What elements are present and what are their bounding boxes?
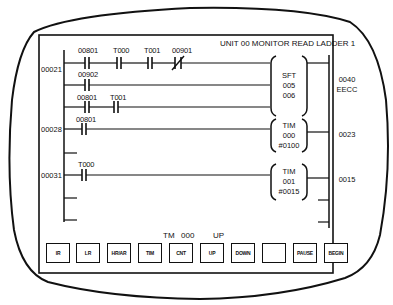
key-hr-ar[interactable]: HR/AR [107, 243, 131, 263]
output-value: 0023 [332, 130, 362, 140]
key-tim[interactable]: TIM [138, 243, 162, 263]
contact-label: T000 [113, 47, 129, 55]
contact-label: 00801 [76, 116, 96, 124]
output-value: EECC [332, 85, 362, 95]
instruction-operand: 001 [269, 177, 309, 187]
contact-label: T001 [110, 94, 126, 102]
key-lr[interactable]: LR [76, 243, 100, 263]
key-begin[interactable]: BEGIN [324, 243, 348, 263]
key-ir[interactable]: IR [46, 243, 70, 263]
contact-label: 00801 [77, 94, 97, 102]
rung-output: 0023 [332, 130, 362, 140]
tim-000-instruction-block: TIM 000 #0100 [269, 121, 309, 151]
key-down[interactable]: DOWN [231, 243, 255, 263]
rung-address: 00021 [41, 66, 62, 74]
output-value: 0040 [332, 75, 362, 85]
instruction-operand: #0015 [269, 187, 309, 197]
status-direction: UP [213, 232, 224, 240]
key-cnt[interactable]: CNT [169, 243, 193, 263]
rung-output: 0040 EECC [332, 75, 362, 95]
instruction-operand: 000 [269, 131, 309, 141]
output-value: 0015 [332, 175, 362, 185]
instruction-name: SFT [269, 71, 309, 81]
contact-label: T000 [78, 161, 94, 169]
rung-address: 00028 [41, 126, 62, 134]
rung-output: 0015 [332, 175, 362, 185]
instruction-operand: 006 [269, 91, 309, 101]
key-pause[interactable]: PAUSE [293, 243, 317, 263]
instruction-name: TIM [269, 121, 309, 131]
status-number: 000 [181, 232, 194, 240]
contact-label: 00901 [172, 47, 192, 55]
rung-address: 00031 [41, 172, 62, 180]
instruction-operand: #0100 [269, 141, 309, 151]
instruction-name: TIM [269, 167, 309, 177]
tim-001-instruction-block: TIM 001 #0015 [269, 167, 309, 197]
status-item: TM [163, 232, 175, 240]
key-blank[interactable] [262, 243, 286, 263]
sft-instruction-block: SFT 005 006 [269, 71, 309, 101]
screen-title: UNIT 00 MONITOR READ LADDER 1 [220, 40, 355, 48]
contact-label: 00801 [78, 47, 98, 55]
instruction-operand: 005 [269, 81, 309, 91]
key-up[interactable]: UP [200, 243, 224, 263]
contact-label: 00902 [78, 71, 98, 79]
contact-label: T001 [144, 47, 160, 55]
